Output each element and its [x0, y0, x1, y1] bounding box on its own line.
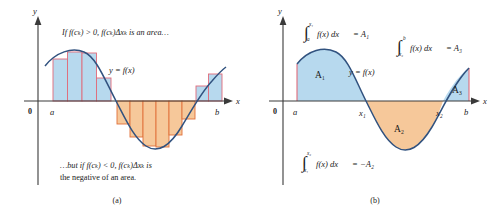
integral-1-upper: x₁ [308, 21, 313, 27]
area-label-A2: A₂ [394, 124, 404, 134]
integral-1-body: f(x) dx [317, 29, 339, 39]
integral-label-3: ∫ x₂ b f(x) dx = A₃ [396, 35, 462, 57]
panel-b-svg: y x 0 a x₁ x₂ b A₁ A₂ [245, 0, 490, 219]
tick-label-a-left: a [50, 107, 54, 117]
area-label-A3: A₃ [452, 85, 462, 95]
panel-sublabel-b: (b) [370, 196, 380, 205]
panel-sublabel-a: (a) [113, 196, 122, 205]
panel-a-svg: y [0, 0, 245, 219]
axis-y-label-a: y [32, 6, 37, 16]
panel-a: y [0, 0, 245, 219]
origin-label-a: 0 [28, 107, 32, 116]
tick-label-b-right: b [215, 107, 219, 117]
integral-3-lower: x₂ [398, 51, 403, 57]
caption-bottom-a-line1: …but if f(cₖ) < 0, f(cₖ)Δxₖ is [60, 161, 152, 170]
integral-1-equals: = A₁ [353, 29, 369, 39]
panel-b: y x 0 a x₁ x₂ b A₁ A₂ [245, 0, 490, 219]
integral-1-lower: a [307, 36, 310, 42]
integral-2-lower: x₁ [303, 167, 308, 173]
integral-3-upper: b [403, 35, 406, 41]
caption-bottom-a-line2: the negative of an area. [60, 173, 136, 182]
region-A2-fill [366, 101, 443, 150]
integral-2-equals: = −A₂ [352, 159, 374, 169]
axis-x-label-a: x [235, 96, 240, 106]
axis-y-label-b: y [277, 6, 282, 16]
tick-label-b-a: a [293, 107, 297, 117]
figure-root: y [0, 0, 490, 219]
tick-label-b-x2: x₂ [435, 108, 443, 118]
axis-x-label-b: x [482, 96, 487, 106]
riemann-rect-positive-left [53, 52, 111, 101]
integral-3-body: f(x) dx [410, 43, 432, 53]
integral-3-equals: = A₃ [446, 43, 462, 53]
integral-label-2: ∫ x₁ x₂ f(x) dx = −A₂ [301, 150, 374, 173]
integral-2-upper: x₂ [306, 150, 311, 156]
origin-label-b: 0 [273, 107, 277, 116]
curve-label-a: y = f(x) [108, 65, 135, 75]
tick-label-b-x1: x₁ [358, 108, 366, 118]
tick-label-b-b: b [464, 107, 468, 117]
curve-label-b: y = f(x) [348, 67, 375, 77]
caption-top-a: If f(cₖ) > 0, f(cₖ)Δxₖ is an area… [61, 28, 169, 37]
area-label-A1: A₁ [315, 70, 325, 80]
integral-label-1: ∫ a x₁ f(x) dx = A₁ [303, 21, 369, 43]
integral-2-body: f(x) dx [316, 159, 338, 169]
